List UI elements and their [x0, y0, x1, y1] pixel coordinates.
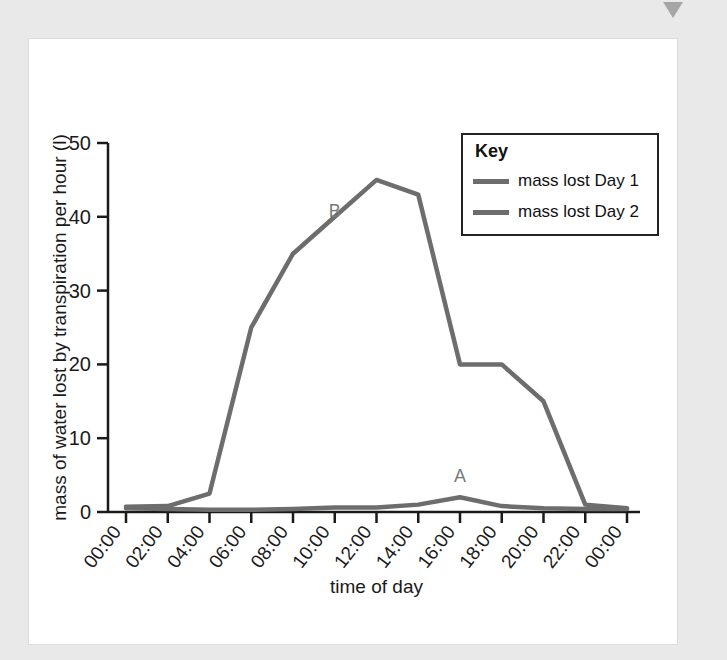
x-axis-tick-label: 18:00	[455, 522, 501, 572]
y-axis-tick-label: 20	[69, 353, 91, 375]
legend-swatch-day-1	[473, 179, 509, 184]
legend-entry-day-2: mass lost Day 2	[473, 202, 639, 222]
y-axis-tick-label: 30	[69, 280, 91, 302]
x-axis-tick-label: 00:00	[580, 522, 626, 572]
x-axis-tick-label: 10:00	[288, 522, 334, 572]
x-axis-title: time of day	[330, 576, 423, 597]
x-axis-tick-label: 08:00	[246, 522, 292, 572]
legend-label-day-1: mass lost Day 1	[518, 171, 639, 191]
x-axis-tick-label: 14:00	[372, 522, 418, 572]
y-axis-tick-label: 40	[69, 206, 91, 228]
x-axis-tick-label: 12:00	[330, 522, 376, 572]
y-axis-tick-label: 0	[80, 501, 91, 523]
annotation-label-b: B	[329, 201, 341, 221]
line-chart-svg: 0102030405000:0002:0004:0006:0008:0010:0…	[0, 0, 727, 660]
x-axis-tick-label: 16:00	[413, 522, 459, 572]
chart-figure: 0102030405000:0002:0004:0006:0008:0010:0…	[0, 0, 727, 660]
legend-label-day-2: mass lost Day 2	[518, 202, 639, 222]
x-axis-tick-label: 04:00	[163, 522, 209, 572]
x-axis-tick-label: 22:00	[539, 522, 585, 572]
x-axis-tick-label: 00:00	[79, 522, 125, 572]
x-axis-tick-label: 02:00	[121, 522, 167, 572]
legend-swatch-day-2	[473, 210, 509, 215]
chart-legend: Key mass lost Day 1 mass lost Day 2	[461, 133, 659, 236]
y-axis-tick-label: 10	[69, 427, 91, 449]
y-axis-tick-label: 50	[69, 132, 91, 154]
legend-entry-day-1: mass lost Day 1	[473, 171, 639, 191]
series-line-1	[126, 497, 627, 510]
legend-title: Key	[475, 141, 508, 162]
y-axis-title: mass of water lost by transpiration per …	[49, 134, 70, 521]
x-axis-tick-label: 06:00	[205, 522, 251, 572]
page-root: 0102030405000:0002:0004:0006:0008:0010:0…	[0, 0, 727, 660]
x-axis-tick-label: 20:00	[497, 522, 543, 572]
annotation-label-a: A	[454, 466, 466, 486]
